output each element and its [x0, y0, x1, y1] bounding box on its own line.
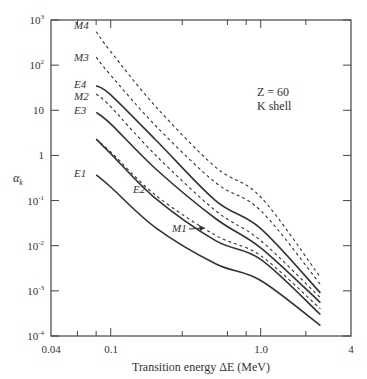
y-tick-labels: 10-410-310-210-1110102103	[27, 13, 44, 342]
curve-label-e4: E4	[73, 78, 87, 90]
annotation-z: Z = 60	[257, 85, 289, 99]
curve-label-m3: M3	[73, 51, 89, 63]
annotation-shell: K shell	[257, 99, 292, 113]
x-axis-title: Transition energy ΔE (MeV)	[132, 360, 270, 374]
chart: 10-410-310-210-1110102103 0.04 0.1 1.0 4…	[0, 0, 367, 379]
svg-text:10-1: 10-1	[27, 194, 44, 207]
svg-text:10-3: 10-3	[27, 284, 44, 297]
svg-text:1: 1	[39, 149, 45, 161]
m1-arrow-head	[199, 225, 205, 231]
svg-text:103: 103	[30, 13, 45, 26]
curve-e1	[96, 175, 320, 326]
curve-label-m1: M1	[171, 222, 187, 234]
svg-text:10-2: 10-2	[27, 239, 44, 252]
curve-label-m4: M4	[73, 19, 89, 31]
curve-e3	[96, 112, 320, 302]
curve-label-e1: E1	[73, 167, 86, 179]
x-tick-label: 0.04	[41, 343, 61, 355]
curve-label-e2: E2	[132, 183, 146, 195]
svg-text:102: 102	[30, 58, 45, 71]
curve-m1	[96, 139, 320, 309]
curve-e2	[96, 139, 320, 314]
x-tick-label: 4	[348, 343, 354, 355]
curve-label-e3: E3	[73, 104, 87, 116]
y-axis-title: αk	[13, 171, 23, 187]
x-tick-label: 0.1	[104, 343, 118, 355]
curve-m2	[96, 94, 320, 298]
curve-e4	[96, 86, 320, 293]
curves	[96, 32, 320, 326]
x-tick-label: 1.0	[254, 343, 268, 355]
svg-text:10-4: 10-4	[27, 329, 44, 342]
curve-label-m2: M2	[73, 90, 89, 102]
svg-text:10: 10	[33, 104, 45, 116]
